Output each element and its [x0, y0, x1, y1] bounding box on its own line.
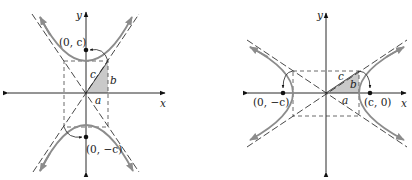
- left-y-axis-label: y: [75, 9, 83, 21]
- left-focus-top-label: (0, c): [59, 36, 86, 48]
- right-focus-right: [368, 91, 373, 96]
- left-focus-bottom-label: (0, −c): [86, 143, 122, 155]
- left-upper-branch-left-arrow: [40, 17, 50, 35]
- right-label-b: b: [350, 78, 357, 90]
- hyperbola-figure: y x (0, c) (0, −c) c b a y x: [0, 0, 412, 180]
- right-y-axis-label: y: [316, 9, 324, 21]
- left-label-c: c: [90, 68, 96, 80]
- right-label-c: c: [338, 70, 344, 82]
- right-hyperbola-diagram: y x (0, −c) (c, 0) c b a: [247, 9, 407, 172]
- left-focus-bottom: [84, 135, 89, 140]
- left-focus-top: [84, 48, 89, 53]
- right-focus-left: [281, 91, 286, 96]
- left-label-a: a: [95, 94, 101, 106]
- left-label-b: b: [110, 74, 117, 86]
- left-hyperbola-diagram: y x (0, c) (0, −c) c b a: [8, 9, 166, 172]
- left-x-axis-label: x: [160, 97, 166, 109]
- right-focus-right-label: (c, 0): [364, 96, 391, 108]
- right-focus-left-label: (0, −c): [253, 96, 289, 108]
- right-x-axis-label: x: [401, 97, 407, 109]
- right-label-a: a: [342, 94, 348, 106]
- left-lower-branch-left-arrow: [40, 153, 50, 171]
